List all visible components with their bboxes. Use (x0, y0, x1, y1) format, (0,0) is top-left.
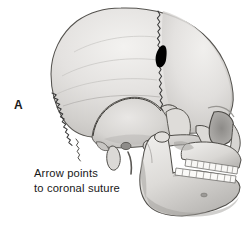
mental-foramen (201, 193, 207, 197)
panel-label-a: A (14, 99, 23, 111)
skull-lateral-view-illustration (0, 0, 243, 240)
caption-line-1: Arrow points (34, 166, 120, 181)
styloid-process (128, 152, 131, 174)
figure-panel: A Arrow points to coronal suture (0, 0, 243, 240)
figure-caption: Arrow points to coronal suture (34, 166, 120, 195)
orbit (209, 111, 234, 145)
caption-line-2: to coronal suture (34, 181, 120, 196)
mandibular-condyle (155, 132, 170, 142)
external-acoustic-meatus (121, 142, 131, 149)
occipitomastoid-suture (76, 139, 80, 161)
